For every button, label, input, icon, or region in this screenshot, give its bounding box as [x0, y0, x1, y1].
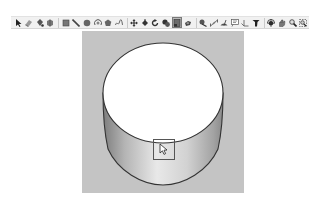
zoom-extents-icon: [299, 19, 307, 27]
tool-push-pull-button[interactable]: [140, 17, 149, 28]
dimension-icon: [210, 19, 218, 27]
tool-circle-button[interactable]: [82, 17, 91, 28]
zoom-icon: [289, 19, 297, 27]
text-icon: [231, 19, 239, 27]
tool-3d-text-button[interactable]: [251, 17, 260, 28]
tool-dimension-button[interactable]: [209, 17, 218, 28]
drawing-viewport[interactable]: [82, 31, 244, 193]
tool-scale-button[interactable]: [172, 17, 182, 28]
toolbar-separator: [58, 18, 59, 28]
protractor-icon: [220, 19, 228, 27]
tool-axes-button[interactable]: [241, 17, 250, 28]
tool-orbit-button[interactable]: [267, 17, 276, 28]
freehand-icon: [115, 19, 123, 27]
tool-rectangle-button[interactable]: [61, 17, 70, 28]
getting-started-toolbar: [11, 16, 309, 29]
arrow-icon: [15, 19, 23, 27]
scale-icon: [173, 19, 181, 27]
cylinder-top-face[interactable]: [103, 43, 223, 143]
toolbar-separator: [196, 18, 197, 28]
tool-pan-button[interactable]: [277, 17, 286, 28]
offset-icon: [184, 19, 192, 27]
rotate-icon: [151, 19, 159, 27]
arc-icon: [94, 19, 102, 27]
tool-eraser-button[interactable]: [25, 17, 34, 28]
cylinder-model[interactable]: [82, 31, 244, 193]
tool-select-button[interactable]: [14, 17, 23, 28]
follow-me-icon: [162, 19, 170, 27]
tool-paint-bucket-button[interactable]: [35, 17, 44, 28]
circle-icon: [83, 19, 91, 27]
tool-freehand-button[interactable]: [114, 17, 123, 28]
orbit-icon: [267, 19, 275, 27]
tool-polygon-button[interactable]: [103, 17, 112, 28]
polygon-icon: [104, 19, 112, 27]
tool-zoom-button[interactable]: [288, 17, 297, 28]
component-icon: [46, 19, 54, 27]
push-pull-icon: [141, 19, 149, 27]
toolbar-separator: [264, 18, 265, 28]
tool-component-button[interactable]: [46, 17, 55, 28]
toolbar-separator: [127, 18, 128, 28]
axes-icon: [241, 19, 249, 27]
tool-text-button[interactable]: [230, 17, 239, 28]
tool-move-button[interactable]: [130, 17, 139, 28]
pan-icon: [278, 19, 286, 27]
tool-arc-button[interactable]: [93, 17, 102, 28]
rectangle-icon: [62, 19, 70, 27]
paint-bucket-icon: [36, 19, 44, 27]
tool-protractor-button[interactable]: [220, 17, 229, 28]
tape-measure-icon: [199, 19, 207, 27]
pencil-icon: [72, 19, 80, 27]
tool-follow-me-button[interactable]: [161, 17, 170, 28]
tool-offset-button[interactable]: [183, 17, 192, 28]
tool-rotate-button[interactable]: [151, 17, 160, 28]
3d-text-icon: [252, 19, 260, 27]
tool-tape-measure-button[interactable]: [198, 17, 207, 28]
eraser-icon: [25, 19, 33, 27]
tool-zoom-extents-button[interactable]: [298, 17, 307, 28]
move-icon: [130, 19, 138, 27]
tool-line-button[interactable]: [72, 17, 81, 28]
